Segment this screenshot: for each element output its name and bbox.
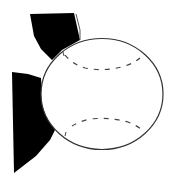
baseball-clipart	[0, 0, 175, 180]
baseball-illustration	[0, 0, 175, 180]
baseball-body	[41, 39, 163, 150]
